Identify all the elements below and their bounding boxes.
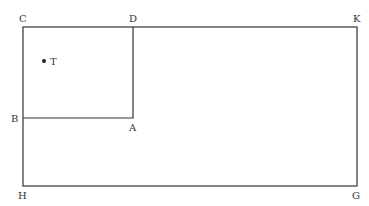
label-g: G <box>352 190 360 201</box>
label-t: T <box>50 56 57 67</box>
label-h: H <box>18 190 27 201</box>
point-t-dot <box>42 59 46 63</box>
label-d: D <box>129 13 137 24</box>
inner-square-cdab <box>23 27 133 118</box>
outer-rectangle-ckgh <box>23 27 357 186</box>
geometry-diagram: C D K B A H G T <box>0 0 369 206</box>
label-a: A <box>128 122 137 133</box>
label-b: B <box>11 113 18 124</box>
label-k: K <box>353 13 361 24</box>
label-c: C <box>19 13 27 24</box>
